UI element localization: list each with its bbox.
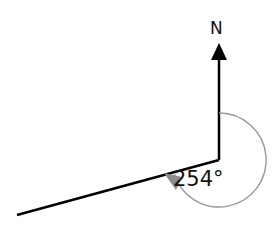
- north-label: N: [210, 18, 223, 38]
- bearing-diagram: [0, 0, 275, 230]
- angle-label: 254°: [173, 167, 224, 191]
- north-arrowhead-icon: [211, 43, 227, 60]
